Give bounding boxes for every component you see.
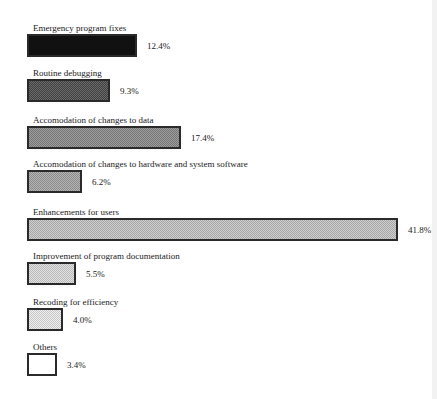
bar-value-label: 5.5% (86, 269, 105, 280)
bar-value-label: 17.4% (191, 133, 214, 144)
bar (27, 170, 82, 193)
bar-row-others: Others 3.4% (0, 353, 437, 377)
bar-category-label: Recoding for efficiency (33, 297, 118, 307)
bar (27, 34, 137, 57)
bar-row-changes-to-data: Accomodation of changes to data 17.4% (0, 126, 437, 150)
bar-category-label: Accomodation of changes to data (33, 115, 153, 125)
bar-category-label: Others (33, 342, 57, 352)
bar-category-label: Emergency program fixes (33, 23, 126, 33)
bar-category-label: Improvement of program documentation (33, 251, 180, 261)
bar-value-label: 6.2% (92, 177, 111, 188)
bar-value-label: 9.3% (120, 86, 139, 97)
bar-value-label: 3.4% (67, 360, 86, 371)
bar-row-changes-to-hardware: Accomodation of changes to hardware and … (0, 170, 437, 194)
bar-row-program-documentation: Improvement of program documentation 5.5… (0, 262, 437, 286)
bar-row-routine-debugging: Routine debugging 9.3% (0, 79, 437, 103)
bar-row-recoding-for-efficiency: Recoding for efficiency 4.0% (0, 308, 437, 332)
bar (27, 308, 63, 331)
bar (27, 353, 57, 376)
bar-value-label: 41.8% (408, 225, 431, 236)
bar-value-label: 4.0% (73, 315, 92, 326)
bar-category-label: Routine debugging (33, 68, 102, 78)
bar-row-emergency-program-fixes: Emergency program fixes 12.4% (0, 34, 437, 58)
maintenance-effort-bar-chart: Emergency program fixes 12.4% Routine de… (0, 0, 437, 399)
bar-category-label: Enhancements for users (33, 207, 119, 217)
bar (27, 218, 398, 241)
bar-row-enhancements-for-users: Enhancements for users 41.8% (0, 218, 437, 242)
bar-value-label: 12.4% (147, 41, 170, 52)
bar (27, 126, 181, 149)
bar (27, 262, 76, 285)
bar (27, 79, 110, 102)
page-edge-shadow (432, 0, 437, 399)
bar-category-label: Accomodation of changes to hardware and … (33, 159, 248, 169)
